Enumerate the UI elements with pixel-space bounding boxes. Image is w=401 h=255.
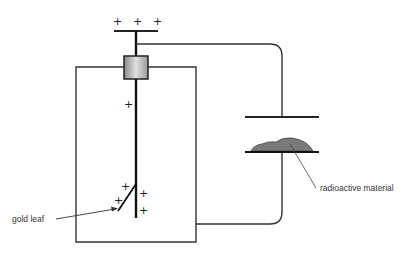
charge-plus: + xyxy=(139,187,148,200)
radioactive-material xyxy=(251,138,313,151)
charge-plus: + xyxy=(121,180,130,193)
lower-wire xyxy=(196,152,282,224)
charge-plus: + xyxy=(124,98,133,111)
charge-plus: + xyxy=(133,15,142,28)
electroscope-diagram: + + + + + + + + gold leaf radioactive ma… xyxy=(0,0,401,255)
gold-leaf-label: gold leaf xyxy=(12,214,45,224)
charge-plus: + xyxy=(114,194,123,207)
insulator-plug xyxy=(124,56,148,79)
radioactive-material-label: radioactive material xyxy=(320,183,394,193)
gold-leaf-pointer xyxy=(56,207,118,220)
charge-plus: + xyxy=(139,204,148,217)
charge-plus: + xyxy=(153,15,162,28)
charge-plus: + xyxy=(113,15,122,28)
upper-wire xyxy=(136,44,282,117)
